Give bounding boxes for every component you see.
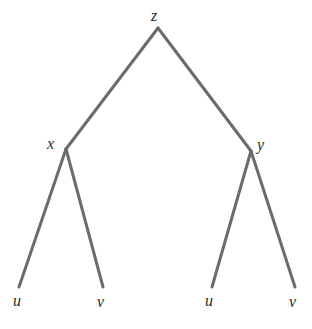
tree-diagram: z x y u v u v xyxy=(0,0,312,329)
tree-edges-canvas xyxy=(0,0,312,329)
edge-y-to-u xyxy=(212,151,251,287)
node-label-root-z: z xyxy=(151,8,157,24)
edge-z-to-x xyxy=(66,28,158,149)
edge-x-to-v xyxy=(66,149,103,287)
edge-y-to-v xyxy=(251,151,295,287)
node-label-leaf-left-u: u xyxy=(13,293,21,309)
node-label-left-internal-x: x xyxy=(47,136,54,152)
node-label-leaf-right-u: u xyxy=(205,293,213,309)
edge-x-to-u xyxy=(19,149,66,287)
node-label-leaf-right-v: v xyxy=(289,294,296,310)
edge-z-to-y xyxy=(158,28,251,151)
node-label-right-internal-y: y xyxy=(257,137,264,153)
node-label-leaf-left-v: v xyxy=(97,294,104,310)
